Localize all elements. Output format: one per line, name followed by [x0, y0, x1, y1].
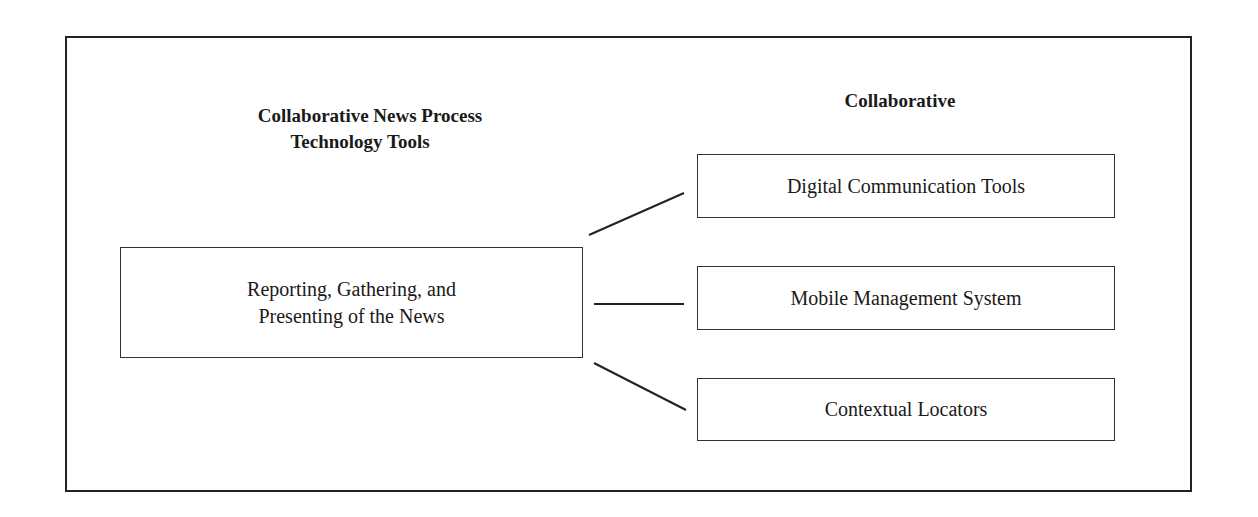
connector-line-lower: [594, 363, 686, 410]
connector-lines: [0, 0, 1258, 517]
connector-line-upper: [589, 193, 684, 235]
